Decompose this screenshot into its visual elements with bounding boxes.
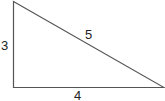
- side-label-hypotenuse: 5: [85, 27, 92, 42]
- side-label-horizontal: 4: [74, 88, 81, 101]
- side-label-vertical: 3: [1, 38, 8, 53]
- triangle-diagram: 3 5 4: [0, 0, 165, 101]
- right-triangle: [14, 2, 165, 88]
